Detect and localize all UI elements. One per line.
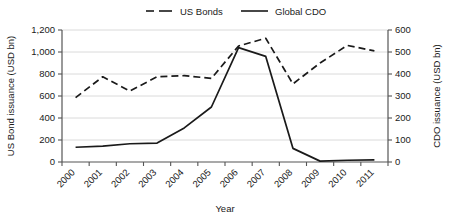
legend-item-us-bonds-label: US Bonds (180, 6, 223, 17)
right-tick-label: 100 (395, 134, 411, 145)
right-tick-label: 0 (395, 156, 400, 167)
left-tick-label: 600 (39, 90, 55, 101)
chart-container: US Bonds Global CDO 02004006008001,0001,… (0, 0, 449, 222)
left-tick-label: 800 (39, 68, 55, 79)
right-tick-label: 400 (395, 68, 411, 79)
left-tick-label: 1,200 (31, 24, 55, 35)
left-tick-label: 0 (50, 156, 55, 167)
right-tick-label: 300 (395, 90, 411, 101)
left-tick-label: 200 (39, 134, 55, 145)
right-tick-label: 200 (395, 112, 411, 123)
right-tick-label: 500 (395, 46, 411, 57)
left-axis-title: US Bond issuance (USD bn) (5, 36, 16, 156)
left-tick-label: 400 (39, 112, 55, 123)
line-chart: US Bonds Global CDO 02004006008001,0001,… (0, 0, 449, 222)
legend-item-global-cdo-label: Global CDO (275, 6, 326, 17)
right-axis-title: CDO issuance (USD bn) (431, 44, 442, 147)
left-tick-label: 1,000 (31, 46, 55, 57)
x-axis-title: Year (215, 203, 234, 214)
right-tick-label: 600 (395, 24, 411, 35)
